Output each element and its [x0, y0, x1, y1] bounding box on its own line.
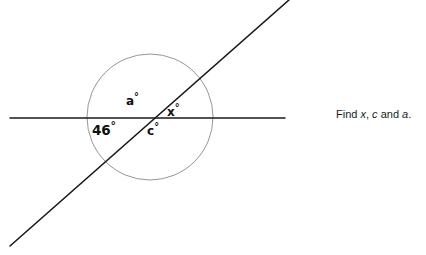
question-prompt: Find x, c and a. — [336, 108, 411, 121]
angle-a-value: a — [126, 94, 134, 108]
geometry-figure — [0, 0, 426, 255]
angle-x-value: x — [167, 105, 175, 119]
angle-label-c: c° — [147, 122, 159, 137]
angle-46-degree: ° — [110, 119, 115, 132]
angle-label-46: 46° — [92, 120, 116, 137]
angle-x-degree: ° — [175, 102, 180, 113]
prompt-lead: Find — [336, 108, 360, 120]
angle-c-degree: ° — [154, 121, 159, 132]
angle-label-x: x° — [167, 103, 180, 118]
angle-46-value: 46 — [92, 122, 110, 138]
angle-a-degree: ° — [134, 91, 139, 102]
prompt-conjunction: and — [378, 108, 402, 120]
prompt-end-period: . — [408, 108, 411, 120]
angle-label-a: a° — [126, 92, 139, 107]
